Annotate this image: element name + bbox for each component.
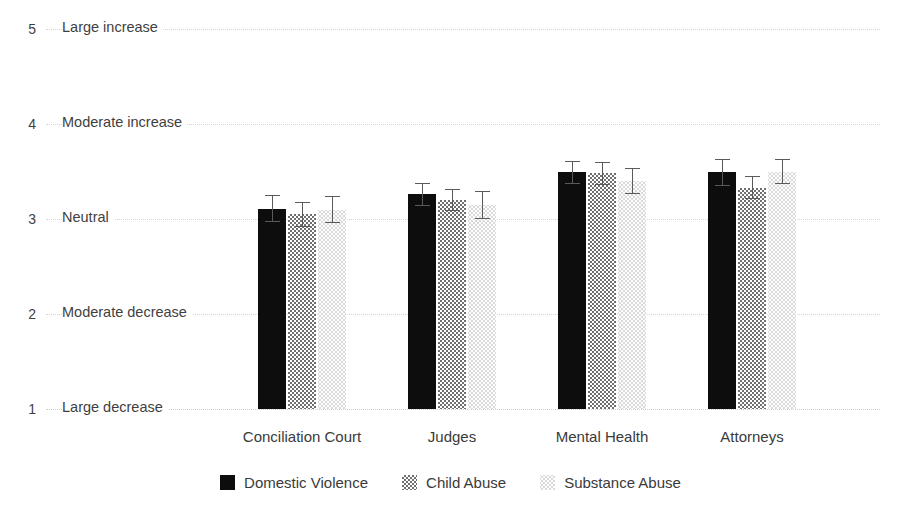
bar <box>258 209 286 409</box>
error-bar-cap-top <box>265 195 280 196</box>
x-axis-category-label: Mental Health <box>556 428 649 445</box>
error-bar-cap-top <box>565 161 580 162</box>
error-bar-cap-top <box>325 196 340 197</box>
chart-legend: Domestic ViolenceChild AbuseSubstance Ab… <box>0 474 901 491</box>
error-bar-cap-top <box>475 191 490 192</box>
bar <box>468 205 496 409</box>
legend-label: Child Abuse <box>426 474 506 491</box>
y-tick-label: Large increase <box>62 19 163 35</box>
y-tick-label: Neutral <box>62 209 114 225</box>
axis-baseline <box>46 409 880 410</box>
error-bar-cap-top <box>415 183 430 184</box>
legend-item[interactable]: Domestic Violence <box>220 474 368 491</box>
legend-swatch-substance-abuse <box>540 475 555 490</box>
y-tick-number: 2 <box>28 306 36 322</box>
bar-chart: 5Large increase4Moderate increase3Neutra… <box>0 0 901 520</box>
x-axis-category-label: Conciliation Court <box>243 428 361 445</box>
legend-item[interactable]: Child Abuse <box>402 474 506 491</box>
error-bar-cap-top <box>595 162 610 163</box>
legend-label: Substance Abuse <box>564 474 681 491</box>
y-tick-label: Moderate increase <box>62 114 187 130</box>
bar <box>558 172 586 409</box>
y-tick-label: Moderate decrease <box>62 304 192 320</box>
error-bar-cap-top <box>715 159 730 160</box>
error-bar-cap-top <box>745 176 760 177</box>
x-axis-category-label: Judges <box>428 428 476 445</box>
error-bar-cap-top <box>775 159 790 160</box>
legend-swatch-child-abuse <box>402 475 417 490</box>
legend-swatch-domestic-violence <box>220 475 235 490</box>
bar <box>588 173 616 409</box>
y-tick-number: 1 <box>28 401 36 417</box>
bar <box>768 172 796 410</box>
plot-area: 5Large increase4Moderate increase3Neutra… <box>0 0 901 520</box>
bar <box>408 194 436 409</box>
bar <box>618 181 646 409</box>
error-bar-cap-top <box>625 168 640 169</box>
error-bar-cap-top <box>295 202 310 203</box>
gridline <box>46 124 880 125</box>
y-tick-number: 3 <box>28 211 36 227</box>
bar <box>438 200 466 409</box>
legend-label: Domestic Violence <box>244 474 368 491</box>
y-tick-number: 4 <box>28 116 36 132</box>
bar <box>738 188 766 409</box>
gridline <box>46 29 880 30</box>
bar <box>708 172 736 409</box>
x-axis-category-label: Attorneys <box>720 428 783 445</box>
y-tick-number: 5 <box>28 21 36 37</box>
bar <box>318 210 346 410</box>
legend-item[interactable]: Substance Abuse <box>540 474 681 491</box>
y-tick-label: Large decrease <box>62 399 168 415</box>
bar <box>288 214 316 409</box>
error-bar-cap-top <box>445 189 460 190</box>
